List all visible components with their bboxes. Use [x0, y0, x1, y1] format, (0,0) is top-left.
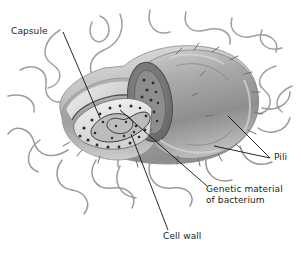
bacterium-illustration	[0, 0, 301, 259]
bacterium-diagram: Capsule Pili Genetic materialof bacteriu…	[0, 0, 301, 259]
label-cell-wall: Cell wall	[163, 231, 201, 242]
label-genetic-line2: of bacterium	[206, 195, 265, 205]
label-genetic-line1: Genetic material	[206, 184, 283, 194]
label-genetic-material: Genetic materialof bacterium	[206, 184, 283, 206]
label-capsule: Capsule	[11, 26, 48, 37]
label-pili: Pili	[274, 152, 287, 163]
